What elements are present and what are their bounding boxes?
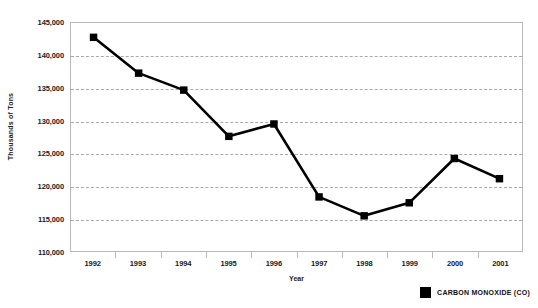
legend-swatch-square-marker xyxy=(420,287,431,298)
y-axis-title-text: Thousands of Tons xyxy=(8,92,15,159)
y-axis-tick-label: 135,000 xyxy=(38,83,64,92)
series-line xyxy=(94,37,500,215)
x-axis-tick-mark xyxy=(115,252,116,258)
x-axis-tick-mark xyxy=(478,252,479,258)
y-axis-tick-label: 125,000 xyxy=(38,149,64,158)
x-axis-tick-label: 1996 xyxy=(266,259,282,268)
x-axis-tick-marks xyxy=(70,252,523,258)
x-axis-tick-label: 1992 xyxy=(84,259,100,268)
data-point-marker: 1999: 117,400 xyxy=(406,199,413,206)
y-axis-tick-labels: 110,000115,000120,000125,000130,000135,0… xyxy=(22,22,68,252)
x-axis-tick-label: 1994 xyxy=(175,259,191,268)
x-axis-tick-label: 1998 xyxy=(356,259,372,268)
x-axis-tick-mark xyxy=(387,252,388,258)
line-chart-figure: Thousands of Tons 110,000115,000120,0001… xyxy=(0,0,538,308)
y-axis-tick-label: 130,000 xyxy=(38,116,64,125)
series-carbon-monoxide: 1992: 142,8001993: 137,3001994: 134,7001… xyxy=(71,23,522,251)
x-axis-tick-mark xyxy=(206,252,207,258)
plot-area: 1992: 142,8001993: 137,3001994: 134,7001… xyxy=(70,22,523,252)
x-axis-tick-mark xyxy=(161,252,162,258)
y-axis-tick-label: 140,000 xyxy=(38,50,64,59)
y-axis-tick-label: 120,000 xyxy=(38,182,64,191)
x-axis-tick-label: 1995 xyxy=(220,259,236,268)
legend-label-carbon-monoxide: CARBON MONOXIDE (CO) xyxy=(437,289,530,296)
y-axis-tick-label: 145,000 xyxy=(38,18,64,27)
x-axis-tick-mark xyxy=(342,252,343,258)
x-axis-title: Year xyxy=(70,275,523,282)
y-axis-tick-label: 115,000 xyxy=(38,215,64,224)
x-axis-tick-mark xyxy=(251,252,252,258)
data-point-marker: 1996: 129,500 xyxy=(270,120,277,127)
data-point-marker: 2001: 121,100 xyxy=(496,175,503,182)
x-axis-tick-label: 2000 xyxy=(447,259,463,268)
x-axis-tick-label: 1993 xyxy=(130,259,146,268)
x-axis-tick-label: 1997 xyxy=(311,259,327,268)
data-point-marker: 1992: 142,800 xyxy=(90,34,97,41)
data-point-marker: 2000: 124,200 xyxy=(451,155,458,162)
data-point-marker: 1995: 127,600 xyxy=(225,133,232,140)
data-point-marker: 1998: 115,400 xyxy=(360,212,367,219)
x-axis-tick-label: 1999 xyxy=(402,259,418,268)
x-axis-tick-mark xyxy=(432,252,433,258)
x-axis-tick-mark xyxy=(297,252,298,258)
data-point-marker: 1997: 118,300 xyxy=(315,193,322,200)
x-axis-tick-labels: 1992199319941995199619971998199920002001 xyxy=(70,259,523,273)
data-point-marker: 1993: 137,300 xyxy=(135,69,142,76)
y-axis-title: Thousands of Tons xyxy=(0,0,22,252)
chart-legend: CARBON MONOXIDE (CO) xyxy=(420,287,530,298)
data-point-marker: 1994: 134,700 xyxy=(180,86,187,93)
x-axis-tick-label: 2001 xyxy=(492,259,508,268)
y-axis-tick-label: 110,000 xyxy=(38,248,64,257)
